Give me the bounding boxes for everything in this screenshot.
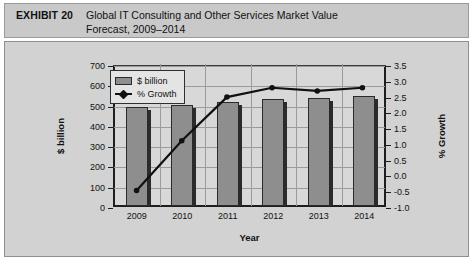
y-tick-right — [386, 192, 391, 193]
y-tick-left — [108, 127, 113, 128]
chart-panel: $ billion % Growth 010020030040050060070… — [4, 41, 469, 257]
y-axis-title-right: % Growth — [436, 114, 447, 158]
y-tick-label-left: 300 — [90, 142, 105, 152]
y-tick-label-right: 0.0 — [394, 171, 407, 181]
chart-legend: $ billion % Growth — [110, 70, 185, 104]
legend-item-line: % Growth — [115, 87, 177, 100]
y-tick-label-left: 600 — [90, 81, 105, 91]
y-axis-title-left: $ billion — [55, 118, 66, 154]
y-tick-label-right: 0.5 — [394, 156, 407, 166]
data-point-marker — [269, 85, 275, 91]
x-tick-label: 2011 — [218, 211, 237, 221]
line-marker-icon — [115, 90, 132, 98]
y-tick-label-left: 500 — [90, 102, 105, 112]
legend-item-bar: $ billion — [115, 74, 177, 87]
legend-label-bar: $ billion — [137, 76, 168, 86]
y-tick-right — [386, 176, 391, 177]
data-point-marker — [179, 138, 185, 144]
y-axis-title-right-wrap: % Growth — [425, 65, 455, 207]
x-tick-label: 2010 — [172, 211, 192, 221]
y-tick-label-left: 200 — [90, 162, 105, 172]
y-tick-label-left: 700 — [90, 61, 105, 71]
legend-label-line: % Growth — [137, 89, 177, 99]
y-tick-label-left: 100 — [90, 183, 105, 193]
y-tick-right — [386, 82, 391, 83]
y-tick-label-left: 0 — [100, 203, 105, 213]
x-tick-label: 2013 — [309, 211, 329, 221]
y-tick-label-right: -1.0 — [394, 203, 410, 213]
data-point-marker — [314, 88, 320, 94]
y-tick-right — [386, 66, 391, 67]
y-tick-right — [386, 113, 391, 114]
data-point-marker — [134, 188, 140, 194]
y-tick-left — [108, 147, 113, 148]
y-tick-right — [386, 129, 391, 130]
x-tick-label: 2012 — [263, 211, 283, 221]
x-tick-label: 2014 — [354, 211, 374, 221]
y-tick-label-left: 400 — [90, 122, 105, 132]
bar-swatch-icon — [115, 77, 132, 85]
y-tick-label-right: 3.5 — [394, 61, 407, 71]
data-point-marker — [360, 85, 366, 91]
y-tick-left — [108, 167, 113, 168]
y-tick-left — [108, 66, 113, 67]
exhibit-number: EXHIBIT 20 — [5, 9, 73, 22]
exhibit-title-line-2: Forecast, 2009–2014 — [73, 23, 338, 37]
exhibit-figure: EXHIBIT 20 Global IT Consulting and Othe… — [0, 0, 473, 262]
x-axis-title: Year — [113, 232, 386, 243]
exhibit-title-line-1: Global IT Consulting and Other Services … — [73, 9, 338, 23]
y-tick-right — [386, 208, 391, 209]
plot-area: 0100200300400500600700 -1.0-0.50.00.51.0… — [113, 65, 386, 207]
y-tick-label-right: 3.0 — [394, 77, 407, 87]
y-tick-right — [386, 145, 391, 146]
y-tick-label-right: 2.0 — [394, 108, 407, 118]
x-tick-label: 2009 — [127, 211, 147, 221]
y-tick-left — [108, 208, 113, 209]
y-tick-label-right: -0.5 — [394, 187, 410, 197]
y-tick-label-right: 1.5 — [394, 124, 407, 134]
y-tick-label-right: 2.5 — [394, 93, 407, 103]
y-tick-right — [386, 98, 391, 99]
y-tick-left — [108, 188, 113, 189]
y-tick-label-right: 1.0 — [394, 140, 407, 150]
exhibit-title: Global IT Consulting and Other Services … — [73, 9, 338, 36]
data-point-marker — [224, 94, 230, 100]
exhibit-header: EXHIBIT 20 Global IT Consulting and Othe… — [4, 3, 469, 38]
y-tick-right — [386, 161, 391, 162]
y-tick-left — [108, 107, 113, 108]
y-axis-title-left-wrap: $ billion — [49, 65, 79, 207]
